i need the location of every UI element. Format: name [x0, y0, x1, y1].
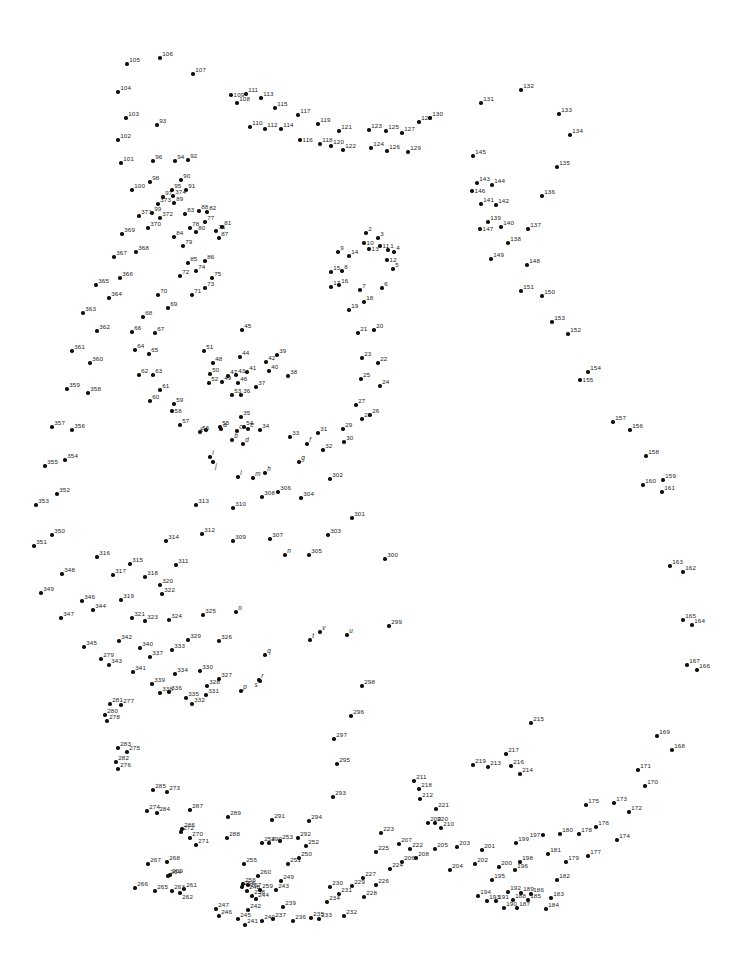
- dot-label: 70: [160, 288, 167, 294]
- dot-label: 236: [295, 914, 306, 920]
- dot-label: 219: [475, 758, 486, 764]
- dot-label: 324: [171, 613, 182, 619]
- dot-label: 176: [598, 820, 609, 826]
- dot-label: 44: [242, 350, 249, 356]
- dot-marker-icon: [220, 225, 223, 228]
- dot-label: 318: [147, 570, 158, 576]
- dot-marker-icon: [128, 562, 131, 565]
- dot-label: 169: [659, 729, 670, 735]
- dot-label: 163: [672, 559, 683, 565]
- dot-label: 167: [689, 658, 700, 664]
- dot-label: 284: [159, 806, 170, 812]
- dot-label: 84: [176, 230, 183, 236]
- dot-label: 374: [175, 189, 186, 195]
- dot-label: 134: [572, 128, 583, 134]
- dot-label: 208: [418, 851, 429, 857]
- dot-marker-icon: [235, 101, 238, 104]
- dot-label: 266: [137, 881, 148, 887]
- dot-marker-icon: [326, 533, 329, 536]
- dot-label: 260: [260, 869, 271, 875]
- dot-label: 125: [388, 124, 399, 130]
- dot-marker-icon: [362, 895, 365, 898]
- dot-marker-icon: [309, 916, 312, 919]
- dot-label: 311: [178, 558, 188, 564]
- dot-marker-icon: [148, 399, 151, 402]
- dot-marker-icon: [297, 460, 300, 463]
- dot-label: 360: [92, 356, 103, 362]
- dot-marker-icon: [480, 848, 483, 851]
- dot-marker-icon: [408, 847, 411, 850]
- dot-label: 246: [221, 909, 232, 915]
- dot-marker-icon: [258, 428, 261, 431]
- dot-label: 268: [169, 855, 180, 861]
- dot-label: 240: [264, 914, 275, 920]
- dot-label: 75: [214, 271, 221, 277]
- dot-marker-icon: [229, 93, 232, 96]
- dot-marker-icon: [180, 827, 183, 830]
- dot-marker-icon: [143, 619, 146, 622]
- dot-label: 276: [120, 762, 131, 768]
- dot-label: 120: [333, 139, 344, 145]
- dot-marker-icon: [137, 373, 140, 376]
- dot-label: 131: [483, 96, 494, 102]
- dot-marker-icon: [298, 138, 301, 141]
- dot-marker-icon: [497, 865, 500, 868]
- dot-marker-icon: [494, 203, 497, 206]
- dot-label: 372: [162, 211, 173, 217]
- dot-label: 341: [135, 665, 146, 671]
- dot-label: 363: [85, 306, 96, 312]
- dot-label: 178: [581, 827, 592, 833]
- dot-label: 305: [311, 548, 322, 554]
- dot-marker-icon: [558, 832, 561, 835]
- dot-label: 57: [182, 418, 189, 424]
- dot-marker-icon: [307, 553, 310, 556]
- dot-marker-icon: [133, 348, 136, 351]
- dot-label: 17: [333, 280, 340, 286]
- dot-marker-icon: [519, 88, 522, 91]
- dot-marker-icon: [274, 888, 277, 891]
- dot-label: 2: [368, 226, 372, 232]
- dot-marker-icon: [317, 917, 320, 920]
- dot-label: 263: [174, 884, 185, 890]
- dot-marker-icon: [156, 293, 159, 296]
- dot-marker-icon: [299, 496, 302, 499]
- dot-label: 87: [221, 231, 228, 237]
- dot-marker-icon: [367, 247, 370, 250]
- dot-label: h: [267, 466, 271, 472]
- dot-label: 149: [493, 252, 504, 258]
- dot-label: 43: [238, 368, 245, 374]
- dot-label: 207: [401, 837, 412, 843]
- dot-marker-icon: [577, 832, 580, 835]
- dot-label: 8: [344, 264, 348, 270]
- dot-label: 323: [147, 614, 158, 620]
- dot-marker-icon: [414, 856, 417, 859]
- dot-label: 64: [137, 343, 144, 349]
- dot-label: 344: [95, 603, 106, 609]
- dot-label: 250: [301, 851, 312, 857]
- dot-label: 119: [320, 117, 330, 123]
- dot-marker-icon: [219, 427, 222, 430]
- dot-label: 118: [322, 137, 332, 143]
- dot-marker-icon: [156, 202, 159, 205]
- dot-label: 321: [134, 611, 145, 617]
- dot-label: 158: [648, 449, 659, 455]
- dot-label: 51: [206, 344, 213, 350]
- dot-marker-icon: [514, 841, 517, 844]
- dot-marker-icon: [254, 897, 257, 900]
- dot-label: 159: [665, 473, 676, 479]
- dot-marker-icon: [360, 684, 363, 687]
- dot-label: 45: [244, 323, 251, 329]
- dot-label: 329: [190, 633, 201, 639]
- dot-label: 235: [313, 911, 324, 917]
- dot-marker-icon: [160, 592, 163, 595]
- dot-marker-icon: [281, 905, 284, 908]
- dot-layer[interactable]: 1234567891011121314151617181920212223242…: [0, 0, 742, 972]
- dot-marker-icon: [167, 618, 170, 621]
- dot-label: 259: [262, 883, 273, 889]
- dot-label: 353: [38, 498, 49, 504]
- dot-label: 243: [278, 883, 289, 889]
- dot-marker-icon: [107, 296, 110, 299]
- dot-marker-icon: [143, 575, 146, 578]
- dot-marker-icon: [690, 623, 693, 626]
- dot-label: 228: [366, 890, 377, 896]
